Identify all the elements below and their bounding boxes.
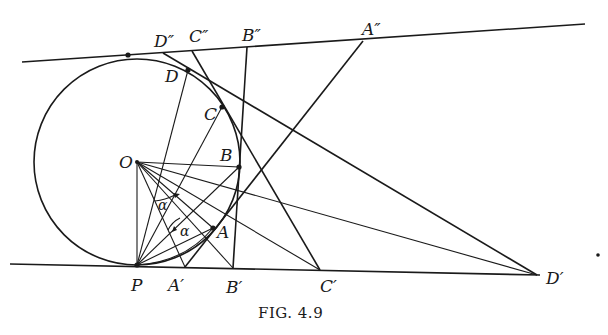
label-C-double-prime: C″ <box>189 26 209 46</box>
label-A-prime: A′ <box>166 275 184 295</box>
label-C: C <box>204 104 217 124</box>
point-C <box>219 104 224 109</box>
segment-OD1 <box>137 162 537 275</box>
label-C-prime: C′ <box>320 276 337 296</box>
label-B: B <box>219 145 233 165</box>
tangent-at-A <box>185 41 363 267</box>
point-O <box>135 160 139 164</box>
label-D-prime: D′ <box>545 268 564 288</box>
label-D-double-prime: D″ <box>153 31 175 51</box>
label-B-double-prime: B″ <box>241 25 261 45</box>
segment-OC1 <box>137 162 320 270</box>
point-A <box>210 225 215 230</box>
tangent-at-C <box>192 51 320 270</box>
label-O: O <box>119 152 133 172</box>
point-P <box>134 262 139 267</box>
point-T <box>125 52 130 57</box>
label-alpha-2: α <box>180 223 190 239</box>
point-D <box>185 67 190 72</box>
label-P: P <box>130 275 143 295</box>
stray-mark <box>596 253 600 257</box>
bottom-tangent-line <box>10 264 540 275</box>
point-B <box>236 164 241 169</box>
tangent-at-B <box>233 47 247 268</box>
label-A: A <box>215 222 229 242</box>
label-alpha-1: α <box>158 197 168 213</box>
label-A-double-prime: A″ <box>360 19 381 39</box>
label-D: D <box>164 66 179 86</box>
figure-4-9-diagram: O P A B C D A′ B′ C′ D′ A″ B″ C″ D″ α α … <box>0 0 608 335</box>
top-tangent-line <box>22 24 585 62</box>
label-B-prime: B′ <box>225 277 242 297</box>
figure-caption: FIG. 4.9 <box>258 304 323 322</box>
